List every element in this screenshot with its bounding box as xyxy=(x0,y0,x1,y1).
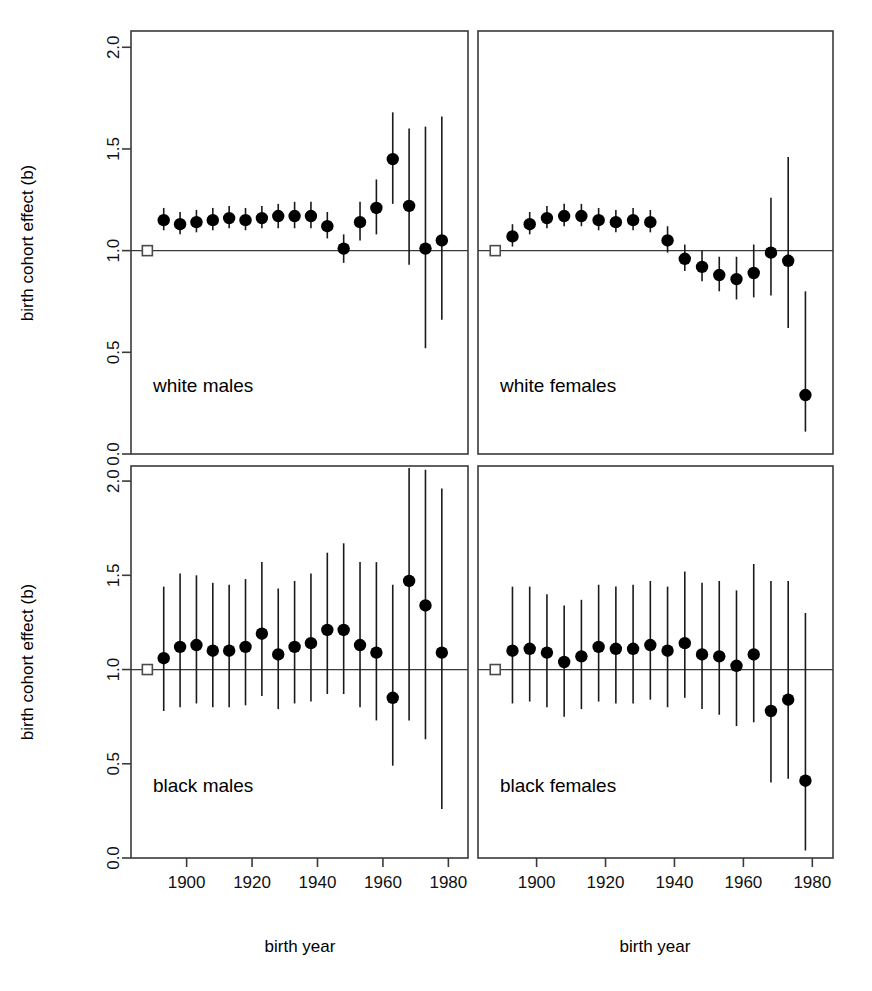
y-axis-title-top: birth cohort effect (b) xyxy=(18,165,37,322)
four-panel-forest-plot: birth cohort effect (b) birth cohort eff… xyxy=(0,0,872,991)
data-point xyxy=(321,624,333,636)
reference-square-marker xyxy=(490,246,500,256)
x-tick-label: 1980 xyxy=(429,873,467,892)
data-point xyxy=(403,200,415,212)
panel-frame xyxy=(131,466,468,858)
data-point xyxy=(506,644,518,656)
y-tick-label: 2.0 xyxy=(104,469,123,493)
y-tick-label: 0.5 xyxy=(104,340,123,364)
panel-white-males: 0.00.51.01.52.0white males xyxy=(104,31,468,466)
data-point xyxy=(354,216,366,228)
data-point xyxy=(713,269,725,281)
x-tick-label: 1900 xyxy=(168,873,206,892)
data-point xyxy=(730,660,742,672)
reference-square-marker xyxy=(490,665,500,675)
data-point xyxy=(696,648,708,660)
data-point xyxy=(354,639,366,651)
y-tick-label: 2.0 xyxy=(104,35,123,59)
panel-black-males: 0.00.51.01.52.019001920194019601980black… xyxy=(104,466,468,892)
data-point xyxy=(782,693,794,705)
data-point xyxy=(305,637,317,649)
data-point xyxy=(610,643,622,655)
data-point xyxy=(748,648,760,660)
data-point xyxy=(207,214,219,226)
data-point xyxy=(256,212,268,224)
data-point xyxy=(288,210,300,222)
y-tick-label: 1.5 xyxy=(104,563,123,587)
data-point xyxy=(158,214,170,226)
y-tick-label: 1.5 xyxy=(104,137,123,161)
data-point xyxy=(288,641,300,653)
y-axis-title-bottom: birth cohort effect (b) xyxy=(18,584,37,741)
data-point xyxy=(679,637,691,649)
data-point xyxy=(506,230,518,242)
panel-frame xyxy=(478,466,833,858)
x-axis-title-left: birth year xyxy=(265,937,336,956)
data-point xyxy=(679,253,691,265)
data-point xyxy=(419,599,431,611)
panel-label: white males xyxy=(152,375,253,396)
data-point xyxy=(190,639,202,651)
data-point xyxy=(223,644,235,656)
data-point xyxy=(748,267,760,279)
y-tick-label: 0.0 xyxy=(104,846,123,870)
data-point xyxy=(190,216,202,228)
data-point xyxy=(174,218,186,230)
figure-container: birth cohort effect (b) birth cohort eff… xyxy=(0,0,872,991)
y-tick-label: 1.0 xyxy=(104,239,123,263)
data-point xyxy=(523,643,535,655)
x-tick-label: 1900 xyxy=(518,873,556,892)
y-tick-label: 0.0 xyxy=(104,442,123,466)
x-tick-label: 1940 xyxy=(656,873,694,892)
data-point xyxy=(223,212,235,224)
reference-square-marker xyxy=(142,246,152,256)
x-tick-label: 1960 xyxy=(724,873,762,892)
data-point xyxy=(403,575,415,587)
data-point xyxy=(541,646,553,658)
y-tick-label: 0.5 xyxy=(104,752,123,776)
panels-root: 0.00.51.01.52.0white maleswhite females0… xyxy=(104,31,833,892)
panel-black-females: 19001920194019601980black females xyxy=(478,466,833,892)
x-tick-label: 1940 xyxy=(299,873,337,892)
x-tick-label: 1920 xyxy=(233,873,271,892)
x-tick-label: 1980 xyxy=(793,873,831,892)
data-point xyxy=(610,216,622,228)
x-axis-title-right: birth year xyxy=(620,937,691,956)
data-point xyxy=(370,646,382,658)
data-point xyxy=(387,692,399,704)
data-point xyxy=(239,641,251,653)
data-point xyxy=(370,202,382,214)
data-point xyxy=(239,214,251,226)
data-point xyxy=(713,650,725,662)
data-point xyxy=(321,220,333,232)
data-point xyxy=(730,273,742,285)
data-point xyxy=(419,242,431,254)
y-tick-label: 1.0 xyxy=(104,658,123,682)
data-point xyxy=(627,643,639,655)
panel-label: black females xyxy=(500,775,616,796)
data-point xyxy=(174,641,186,653)
panel-label: black males xyxy=(153,775,253,796)
data-point xyxy=(272,210,284,222)
data-point xyxy=(256,628,268,640)
data-point xyxy=(799,389,811,401)
data-point xyxy=(782,255,794,267)
y-axis-title-top-text: birth cohort effect (b) xyxy=(18,165,37,322)
data-point xyxy=(541,212,553,224)
x-tick-label: 1920 xyxy=(587,873,625,892)
data-point xyxy=(387,153,399,165)
data-point xyxy=(158,652,170,664)
data-point xyxy=(592,214,604,226)
data-point xyxy=(523,218,535,230)
data-point xyxy=(337,242,349,254)
x-tick-label: 1960 xyxy=(364,873,402,892)
data-point xyxy=(337,624,349,636)
data-point xyxy=(627,214,639,226)
data-point xyxy=(575,210,587,222)
data-point xyxy=(272,648,284,660)
reference-square-marker xyxy=(142,665,152,675)
data-point xyxy=(765,705,777,717)
data-point xyxy=(436,234,448,246)
data-point xyxy=(436,646,448,658)
data-point xyxy=(765,246,777,258)
